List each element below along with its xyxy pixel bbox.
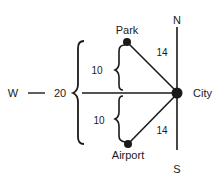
lower-offset-label: 10 [93, 115, 105, 126]
airport-label: Airport [112, 149, 144, 161]
upper-offset-label: 10 [91, 65, 103, 76]
airport-city-distance: 14 [156, 125, 168, 136]
west-label: W [8, 87, 19, 99]
city-node [172, 88, 183, 99]
park-label: Park [116, 24, 139, 36]
airport-node [124, 140, 132, 148]
north-label: N [173, 14, 181, 26]
city-label: City [193, 87, 212, 99]
lower-small-brace [115, 96, 125, 142]
park-city-edge [127, 42, 177, 92]
distance-diagram: N S Park Airport City 14 14 W 20 10 10 [0, 0, 224, 179]
west-distance-label: 20 [54, 87, 66, 99]
south-label: S [173, 163, 180, 175]
airport-city-edge [128, 94, 177, 144]
upper-small-brace [115, 45, 125, 90]
park-city-distance: 14 [156, 47, 168, 58]
